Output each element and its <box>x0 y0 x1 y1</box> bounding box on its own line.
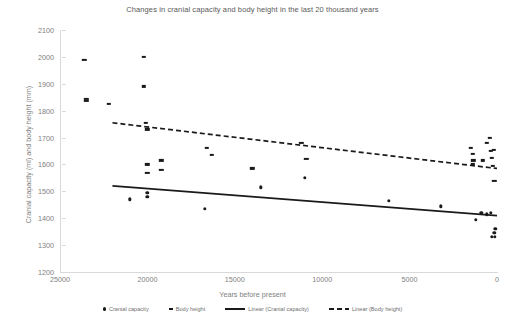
x-tick-label: 0 <box>495 275 499 284</box>
data-point <box>142 85 146 87</box>
y-tick-label: 1600 <box>8 160 54 169</box>
y-tick-label: 1400 <box>8 214 54 223</box>
legend-dashed-line-icon <box>329 308 349 310</box>
legend-label: Linear (Body height) <box>352 306 402 312</box>
data-point <box>145 171 149 173</box>
data-point <box>469 147 473 149</box>
plot-area <box>60 30 497 272</box>
legend-item[interactable]: Body height <box>169 306 206 312</box>
data-point <box>142 56 146 58</box>
chart-title: Changes in cranial capacity and body hei… <box>0 5 505 14</box>
data-point <box>205 147 209 149</box>
data-point <box>491 149 495 151</box>
y-tick-label: 2100 <box>8 26 54 35</box>
data-point <box>481 159 485 161</box>
y-tick-label: 1200 <box>8 268 54 277</box>
data-point <box>490 157 494 159</box>
legend-label: Linear (Cranial capacity) <box>248 306 309 312</box>
legend-dash-icon <box>169 308 173 310</box>
data-point <box>107 103 111 105</box>
legend-item[interactable]: Linear (Body height) <box>329 306 402 312</box>
trendlines-layer <box>60 30 497 272</box>
data-point <box>299 142 303 144</box>
legend-label: Body height <box>176 306 206 312</box>
x-tick-label: 20000 <box>137 275 157 284</box>
legend-label: Cranial capacity <box>109 306 149 312</box>
y-tick-label: 1300 <box>8 241 54 250</box>
data-point <box>159 169 163 171</box>
chart-legend: Cranial capacityBody heightLinear (Crani… <box>0 306 505 312</box>
legend-circle-icon <box>103 307 106 310</box>
y-tick-label: 2000 <box>8 52 54 61</box>
x-tick-label: 25000 <box>50 275 70 284</box>
y-tick-label: 1500 <box>8 187 54 196</box>
data-point <box>470 163 474 165</box>
x-tick-label: 15000 <box>225 275 245 284</box>
legend-item[interactable]: Cranial capacity <box>103 306 149 312</box>
data-point <box>492 179 496 181</box>
chart-container: Changes in cranial capacity and body hei… <box>0 0 505 324</box>
y-tick-mark <box>62 272 66 273</box>
data-point <box>82 58 86 60</box>
data-point <box>470 153 474 155</box>
data-point <box>490 165 494 167</box>
y-tick-label: 1800 <box>8 106 54 115</box>
x-axis-title: Years before present <box>0 290 505 299</box>
y-tick-label: 1900 <box>8 79 54 88</box>
y-tick-label: 1700 <box>8 133 54 142</box>
x-tick-label: 10000 <box>312 275 332 284</box>
x-axis-line <box>60 272 498 273</box>
data-point <box>488 136 492 138</box>
legend-solid-line-icon <box>225 308 245 310</box>
data-point <box>143 122 147 124</box>
data-point <box>210 154 214 156</box>
y-axis-tick-labels: 1200130014001500160017001800190020002100 <box>6 0 54 324</box>
data-point <box>250 167 254 169</box>
trendline <box>112 123 497 169</box>
data-point <box>145 163 149 165</box>
data-point <box>84 100 88 102</box>
data-point <box>484 142 488 144</box>
x-tick-label: 5000 <box>402 275 418 284</box>
data-point <box>145 128 149 130</box>
data-point <box>471 159 475 161</box>
data-point <box>159 159 163 161</box>
trendline <box>112 186 497 216</box>
data-point <box>304 158 308 160</box>
legend-item[interactable]: Linear (Cranial capacity) <box>225 306 309 312</box>
